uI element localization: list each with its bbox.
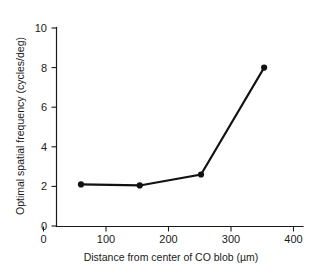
- y-tick-label-10: 10: [35, 22, 47, 34]
- x-tick-label-400: 400: [284, 233, 302, 245]
- x-tick-label-0: 0: [40, 233, 46, 245]
- x-tick-label-200: 200: [159, 233, 177, 245]
- y-tick-label-8: 8: [41, 62, 47, 74]
- y-tick-label-6: 6: [41, 101, 47, 113]
- x-tick-label-100: 100: [97, 233, 115, 245]
- y-tick-label-4: 4: [41, 141, 47, 153]
- x-tick-label-300: 300: [222, 233, 240, 245]
- data-markers-group: [78, 65, 267, 189]
- data-series-group: [78, 65, 267, 189]
- y-tick-labels: 10 8 6 4 2 0: [35, 22, 47, 232]
- chart-figure: 10 8 6 4 2 0 0 100 200 300 400 Distance …: [0, 0, 321, 274]
- x-tick-marks: [44, 227, 294, 232]
- data-line-optimal-spatial-frequency: [81, 68, 264, 186]
- x-axis-title: Distance from center of CO blob (µm): [84, 251, 259, 263]
- y-tick-marks: [52, 28, 57, 226]
- line-chart: 10 8 6 4 2 0 0 100 200 300 400 Distance …: [0, 0, 321, 274]
- y-tick-label-2: 2: [41, 180, 47, 192]
- axes-group: [57, 28, 304, 227]
- data-point-1: [137, 182, 143, 188]
- y-tick-label-0: 0: [41, 220, 47, 232]
- x-tick-labels: 0 100 200 300 400: [40, 233, 302, 245]
- data-point-0: [78, 181, 84, 187]
- y-axis-title: Optimal spatial frequency (cycles/deg): [14, 37, 26, 215]
- data-point-2: [198, 171, 204, 177]
- data-point-3: [261, 65, 267, 71]
